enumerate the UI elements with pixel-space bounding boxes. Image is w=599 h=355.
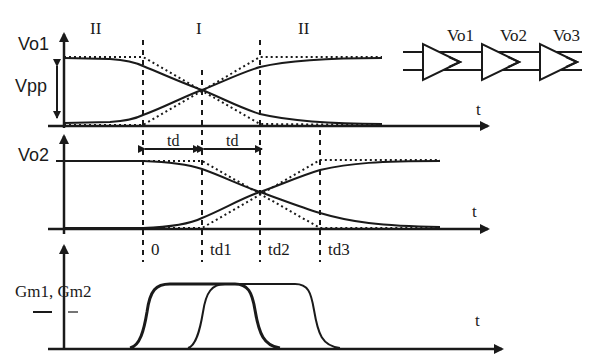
buffer-stage-2 [482,44,519,80]
panel3-ylabel: Gm1, Gm2 [15,283,92,300]
td-label-1: td [167,133,179,149]
vo1-rising [64,58,382,123]
vpp-label: Vpp [15,77,47,95]
panel2-ylabel: Vo2 [18,146,49,164]
time-marker-td3: td3 [328,241,350,258]
buffer-stage-1 [423,44,460,80]
vo2-ideal-rising [143,160,440,228]
timing-diagram: II I II Vo1 Vpp t td td Vo2 t 0 td1 td2 … [0,0,599,355]
gm1-pulse [130,284,280,348]
region-label-right: II [298,20,309,37]
vo2-ideal-falling [143,161,440,228]
buffer-label-vo3: Vo3 [553,27,580,44]
diagram-graphics [0,0,599,355]
buffer-label-vo2: Vo2 [500,27,527,44]
buffer-label-vo1: Vo1 [447,27,474,44]
panel3-xlabel: t [475,312,480,329]
panel3-gm [33,246,502,350]
vo1-falling [64,58,382,124]
panel2-xlabel: t [472,203,477,220]
buffer-stage-3 [540,44,577,80]
time-marker-td2: td2 [268,241,290,258]
buffer-chain [403,44,582,80]
region-label-left: II [90,20,101,37]
time-marker-0: 0 [151,241,160,258]
time-marker-td1: td1 [210,241,232,258]
vo1-ideal-falling [64,57,382,125]
panel1-ylabel: Vo1 [18,35,49,53]
vo2-rising [64,161,440,228]
panel1-xlabel: t [476,101,481,118]
vo1-ideal-rising [64,57,382,125]
panel2-vo2 [48,136,488,234]
td-label-2: td [226,133,238,149]
region-label-center: I [196,20,202,37]
